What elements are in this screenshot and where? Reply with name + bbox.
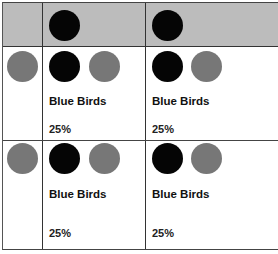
bird-table: Blue Birds 25% Blue Birds 25% Blue Birds…: [2, 2, 278, 250]
column-divider-2: [145, 3, 146, 249]
header-dark-circle-icon: [49, 10, 80, 41]
cell-percent: 25%: [49, 227, 71, 239]
dark-circle-icon: [152, 51, 183, 82]
dark-circle-icon: [152, 143, 183, 174]
cell-label: Blue Birds: [49, 188, 107, 200]
row-gray-circle-icon: [7, 143, 38, 174]
cell-percent: 25%: [152, 123, 174, 135]
header-dark-circle-icon: [152, 10, 183, 41]
gray-circle-icon: [89, 143, 120, 174]
row-gray-circle-icon: [7, 51, 38, 82]
dark-circle-icon: [49, 143, 80, 174]
gray-circle-icon: [89, 51, 120, 82]
header-row: [3, 3, 278, 47]
cell-label: Blue Birds: [152, 95, 210, 107]
column-divider-1: [42, 3, 43, 249]
dark-circle-icon: [49, 51, 80, 82]
cell-label: Blue Birds: [152, 188, 210, 200]
gray-circle-icon: [191, 143, 222, 174]
cell-percent: 25%: [152, 227, 174, 239]
row-divider: [3, 140, 278, 141]
cell-percent: 25%: [49, 123, 71, 135]
gray-circle-icon: [191, 51, 222, 82]
cell-label: Blue Birds: [49, 95, 107, 107]
